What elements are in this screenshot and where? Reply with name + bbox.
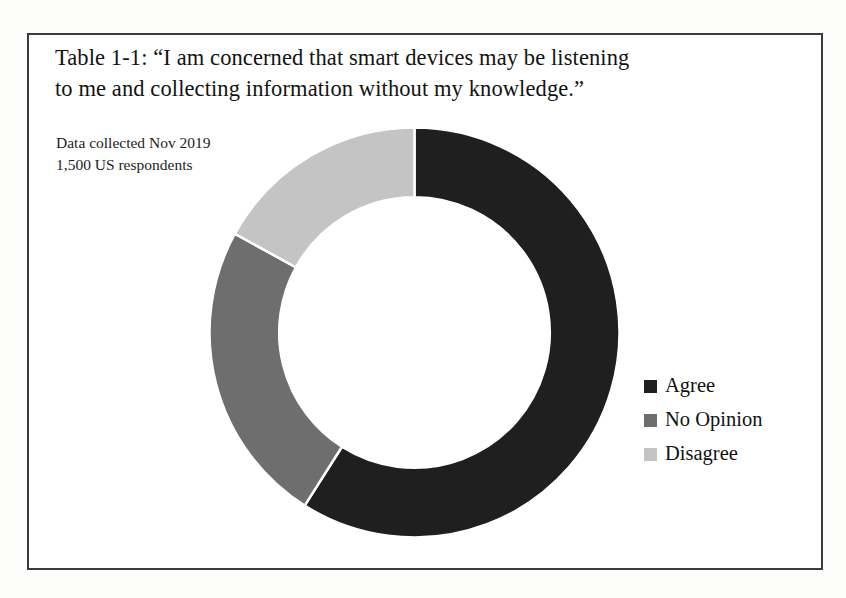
note-line-respondents: 1,500 US respondents <box>56 154 211 176</box>
caption-line-2: to me and collecting information without… <box>55 73 755 104</box>
legend-swatch-no-opinion-icon <box>644 414 657 427</box>
data-source-note: Data collected Nov 2019 1,500 US respond… <box>56 132 211 176</box>
caption-line-1: Table 1-1: “I am concerned that smart de… <box>55 42 755 73</box>
legend-item-agree: Agree <box>644 368 814 402</box>
donut-slice-no-opinion <box>210 234 343 506</box>
donut-slice-group <box>210 128 620 538</box>
legend-item-no-opinion: No Opinion <box>644 402 814 436</box>
legend-label-agree: Agree <box>665 375 715 396</box>
note-line-collection-date: Data collected Nov 2019 <box>56 132 211 154</box>
legend-swatch-agree-icon <box>644 380 657 393</box>
legend-label-no-opinion: No Opinion <box>665 409 762 430</box>
legend-label-disagree: Disagree <box>665 443 738 464</box>
figure-caption: Table 1-1: “I am concerned that smart de… <box>55 42 755 104</box>
legend-item-disagree: Disagree <box>644 436 814 470</box>
donut-slice-disagree <box>235 128 415 268</box>
figure-border-box: Table 1-1: “I am concerned that smart de… <box>27 33 823 570</box>
donut-chart-svg <box>207 125 622 540</box>
donut-chart <box>207 125 622 540</box>
chart-legend: Agree No Opinion Disagree <box>644 368 814 470</box>
legend-swatch-disagree-icon <box>644 448 657 461</box>
